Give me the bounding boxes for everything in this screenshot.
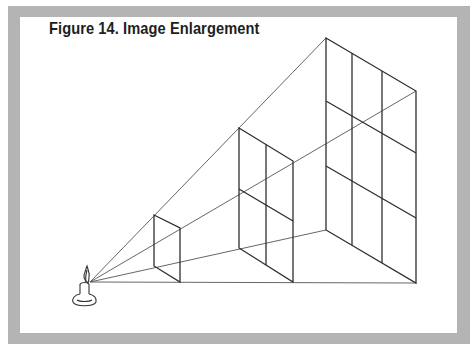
candle-icon [73,266,96,306]
large-frame [326,38,416,283]
small-frame [154,215,180,282]
enlargement-diagram [0,0,473,349]
medium-frame [239,128,293,282]
projection-rays [90,38,416,283]
